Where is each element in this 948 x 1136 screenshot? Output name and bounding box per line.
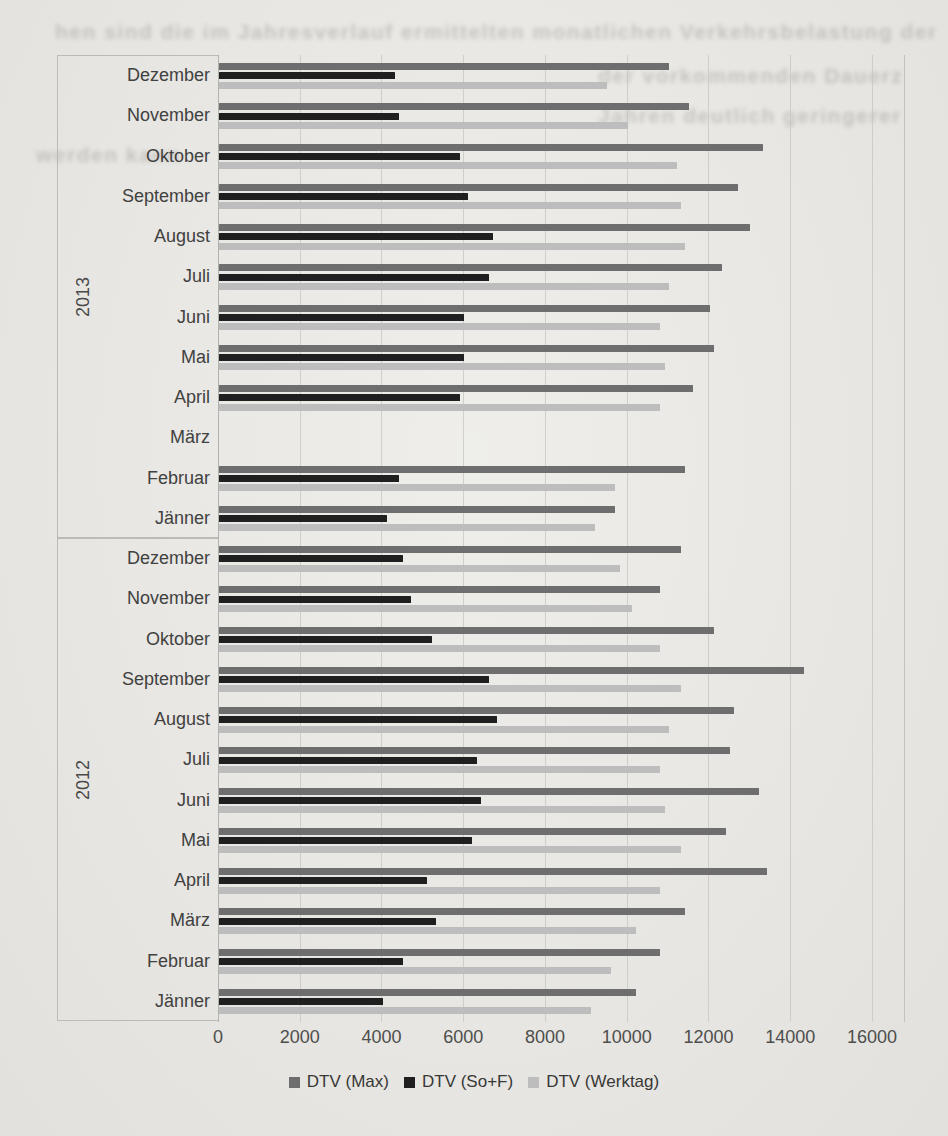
bar-werktag <box>219 565 620 572</box>
bar-sof <box>219 475 399 482</box>
month-row-2012: Jänner <box>57 981 905 1021</box>
bar-group <box>218 780 905 820</box>
x-axis-tick: 2000 <box>255 1027 345 1048</box>
month-label: Februar <box>57 941 218 981</box>
bar-max <box>219 788 759 795</box>
month-row-2012: April <box>57 860 905 900</box>
bar-max <box>219 385 693 392</box>
x-axis-tick: 4000 <box>337 1027 427 1048</box>
month-row-2012: Mai <box>57 820 905 860</box>
bar-group <box>218 900 905 940</box>
bar-sof <box>219 193 468 200</box>
month-row-2012: Oktober <box>57 619 905 659</box>
bar-werktag <box>219 967 611 974</box>
month-row-2013: Juni <box>57 297 905 337</box>
bar-max <box>219 586 660 593</box>
month-row-2012: September <box>57 659 905 699</box>
month-row-2013: Dezember <box>57 55 905 95</box>
bar-sof <box>219 676 489 683</box>
bar-sof <box>219 515 387 522</box>
month-label: August <box>57 699 218 739</box>
legend-swatch-icon <box>404 1077 415 1088</box>
month-label: November <box>57 95 218 135</box>
bar-sof <box>219 716 497 723</box>
bar-sof <box>219 153 460 160</box>
month-row-2013: September <box>57 176 905 216</box>
bar-group <box>218 538 905 578</box>
month-row-2012: Februar <box>57 941 905 981</box>
month-row-2013: Mai <box>57 337 905 377</box>
bar-sof <box>219 958 403 965</box>
month-label: Mai <box>57 337 218 377</box>
chart-legend: DTV (Max)DTV (So+F)DTV (Werktag) <box>0 1070 948 1094</box>
month-row-2013: Oktober <box>57 136 905 176</box>
bar-werktag <box>219 122 628 129</box>
bar-group <box>218 297 905 337</box>
bar-max <box>219 144 763 151</box>
month-label: Jänner <box>57 981 218 1021</box>
year-group-2013: 2013DezemberNovemberOktoberSeptemberAugu… <box>57 55 905 538</box>
month-row-2013: Juli <box>57 256 905 296</box>
bar-group <box>218 417 905 457</box>
month-row-2012: November <box>57 578 905 618</box>
x-axis-tick: 0 <box>173 1027 263 1048</box>
bar-max <box>219 747 730 754</box>
bar-max <box>219 345 714 352</box>
bar-group <box>218 820 905 860</box>
x-axis-tick: 8000 <box>500 1027 590 1048</box>
bar-werktag <box>219 323 660 330</box>
dtv-monthly-bar-chart: 2013DezemberNovemberOktoberSeptemberAugu… <box>57 55 905 1022</box>
bar-max <box>219 264 722 271</box>
bar-werktag <box>219 887 660 894</box>
legend-label: DTV (Max) <box>307 1072 389 1092</box>
bar-max <box>219 949 660 956</box>
bar-werktag <box>219 766 660 773</box>
bar-group <box>218 981 905 1021</box>
month-row-2013: Februar <box>57 458 905 498</box>
month-label: April <box>57 377 218 417</box>
bar-group <box>218 659 905 699</box>
bar-sof <box>219 757 477 764</box>
bar-werktag <box>219 202 681 209</box>
month-label: Juli <box>57 739 218 779</box>
month-row-2013: März <box>57 417 905 457</box>
month-label: April <box>57 860 218 900</box>
month-row-2012: Juni <box>57 780 905 820</box>
month-row-2013: Jänner <box>57 498 905 538</box>
bar-werktag <box>219 927 636 934</box>
legend-label: DTV (So+F) <box>422 1072 513 1092</box>
bar-group <box>218 256 905 296</box>
legend-item: DTV (Max) <box>289 1072 389 1092</box>
x-axis-tick: 16000 <box>827 1027 917 1048</box>
month-row-2013: August <box>57 216 905 256</box>
month-label: Mai <box>57 820 218 860</box>
legend-label: DTV (Werktag) <box>546 1072 659 1092</box>
month-label: Juni <box>57 780 218 820</box>
x-axis-tick-labels: 0200040006000800010000120001400016000 <box>57 1027 905 1051</box>
bar-werktag <box>219 645 660 652</box>
bar-sof <box>219 797 481 804</box>
bar-sof <box>219 274 489 281</box>
bleedthrough-line: hen sind die im Jahresverlauf ermittelte… <box>55 20 938 44</box>
month-label: Oktober <box>57 136 218 176</box>
bar-werktag <box>219 363 665 370</box>
month-label: Februar <box>57 458 218 498</box>
month-row-2012: Juli <box>57 739 905 779</box>
bar-sof <box>219 837 472 844</box>
x-axis-tick: 12000 <box>664 1027 754 1048</box>
bar-sof <box>219 555 403 562</box>
bar-sof <box>219 72 395 79</box>
bar-werktag <box>219 484 615 491</box>
bar-max <box>219 305 710 312</box>
bar-sof <box>219 877 427 884</box>
bar-sof <box>219 354 464 361</box>
bar-group <box>218 377 905 417</box>
bar-sof <box>219 636 432 643</box>
bar-max <box>219 103 689 110</box>
month-label: Juli <box>57 256 218 296</box>
bar-max <box>219 667 804 674</box>
month-label: März <box>57 900 218 940</box>
bar-max <box>219 63 669 70</box>
bar-werktag <box>219 162 677 169</box>
bar-group <box>218 699 905 739</box>
